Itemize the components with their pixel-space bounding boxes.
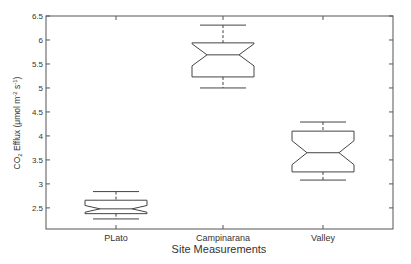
y-tick-label: 4 [39, 132, 44, 141]
x-tick-label: Campinarana [196, 233, 250, 243]
y-tick-label: 5 [39, 84, 44, 93]
x-tick-label: Valley [311, 233, 335, 243]
y-tick-label: 2.5 [32, 204, 44, 213]
notched-box [85, 200, 147, 213]
notched-box [292, 131, 354, 172]
y-tick-label: 6 [39, 36, 44, 45]
y-tick-label: 6.5 [32, 12, 44, 21]
y-tick-label: 3.5 [32, 156, 44, 165]
y-axis: 2.533.544.555.566.5 [32, 12, 393, 213]
y-tick-label: 3 [39, 180, 44, 189]
plot-area [46, 16, 393, 229]
x-tick-label: PLato [104, 233, 128, 243]
box-plot-chart: 2.533.544.555.566.5 PLatoCampinaranaVall… [0, 0, 411, 264]
y-axis-title: CO2 Efflux (μmol m-2 s-1) [12, 76, 23, 169]
notched-box [192, 43, 254, 77]
box-valley [292, 122, 354, 180]
box-plato [85, 192, 147, 219]
x-axis-title: Site Measurements [172, 243, 267, 255]
y-tick-label: 5.5 [32, 60, 44, 69]
y-tick-label: 4.5 [32, 108, 44, 117]
x-axis: PLatoCampinaranaValley [104, 16, 335, 243]
box-campinarana [192, 25, 254, 88]
